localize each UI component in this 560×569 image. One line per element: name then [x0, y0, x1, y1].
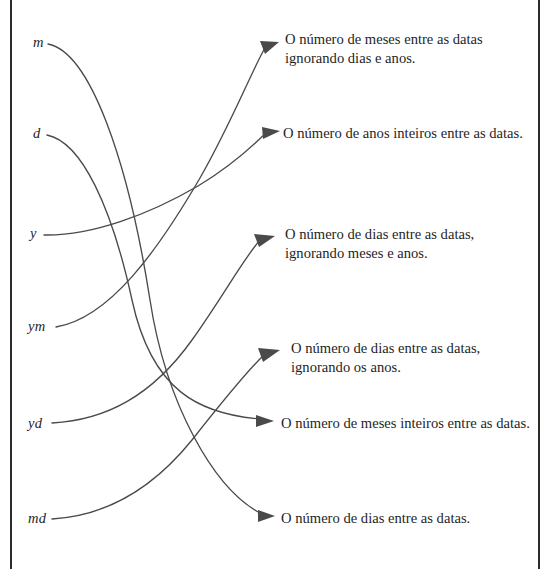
unit-code-md[interactable]: md	[28, 511, 46, 526]
arrowhead-icon-r2	[262, 127, 280, 139]
arrowhead-icon-r3	[254, 234, 275, 247]
description-r4[interactable]: O número de dias entre as datas, ignoran…	[291, 339, 480, 378]
unit-code-d[interactable]: d	[33, 126, 40, 141]
connector-ym-to-r1[interactable]	[56, 46, 266, 327]
arrowhead-icon-r6	[258, 510, 275, 522]
connector-arrows-layer	[0, 0, 560, 569]
description-r2[interactable]: O número de anos inteiros entre as datas…	[283, 124, 523, 143]
connector-d-to-r5[interactable]	[47, 135, 260, 419]
unit-code-yd[interactable]: yd	[28, 416, 42, 431]
matching-diagram-page: mdyymydmd O número de meses entre as dat…	[0, 0, 560, 569]
arrowhead-icon-r5	[256, 415, 274, 427]
description-r5[interactable]: O número de meses inteiros entre as data…	[281, 414, 530, 433]
description-r6[interactable]: O número de dias entre as datas.	[281, 509, 470, 528]
unit-code-y[interactable]: y	[30, 226, 37, 241]
unit-code-ym[interactable]: ym	[28, 319, 45, 334]
description-r1[interactable]: O número de meses entre as datas ignoran…	[285, 30, 483, 69]
description-r3[interactable]: O número de dias entre as datas, ignoran…	[285, 225, 474, 264]
connector-y-to-r2[interactable]	[44, 133, 266, 235]
connector-m-to-r6[interactable]	[48, 44, 262, 514]
unit-code-m[interactable]: m	[33, 35, 44, 50]
arrowhead-icon-r4	[258, 348, 280, 362]
